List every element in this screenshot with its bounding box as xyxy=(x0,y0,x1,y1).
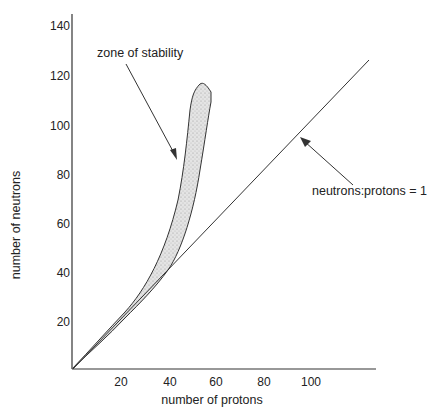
x-tick-80: 80 xyxy=(257,375,271,389)
zone-of-stability-band xyxy=(73,83,211,368)
y-tick-40: 40 xyxy=(57,266,71,280)
y-tick-20: 20 xyxy=(57,315,71,329)
x-tick-100: 100 xyxy=(301,375,321,389)
ratio-one-line xyxy=(73,60,369,369)
zone-annotation-label: zone of stability xyxy=(97,46,184,60)
x-tick-20: 20 xyxy=(114,375,128,389)
y-tick-140: 140 xyxy=(50,19,70,33)
ratio-annotation-label: neutrons:protons = 1 xyxy=(312,184,427,198)
y-tick-80: 80 xyxy=(57,168,71,182)
zone-arrowhead-icon xyxy=(170,148,177,160)
x-tick-60: 60 xyxy=(209,375,223,389)
zone-annotation-arrow xyxy=(126,64,175,155)
y-tick-120: 120 xyxy=(50,69,70,83)
ratio-annotation-arrow xyxy=(304,141,353,185)
y-tick-100: 100 xyxy=(50,119,70,133)
y-tick-60: 60 xyxy=(57,217,71,231)
y-axis-title: number of neutrons xyxy=(9,171,23,279)
x-tick-40: 40 xyxy=(163,375,177,389)
x-axis-title: number of protons xyxy=(161,393,262,407)
chart-canvas: 140 120 100 80 60 40 20 20 40 60 80 100 … xyxy=(0,0,441,416)
